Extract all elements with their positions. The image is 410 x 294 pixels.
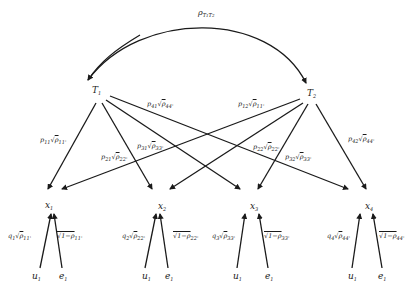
label-p21: p21√ρ22' xyxy=(101,154,127,162)
node-e-x3: e1 xyxy=(265,272,274,282)
label-p42: p42√ρ44' xyxy=(348,136,374,144)
path-e-x2 xyxy=(160,214,168,268)
label-p41: p41√ρ44' xyxy=(147,101,173,109)
node-e-x4: e1 xyxy=(378,272,387,282)
node-u-x1: u1 xyxy=(32,272,41,282)
label-q2: q2√ρ22' xyxy=(122,233,145,241)
label-p22: p22√ρ22' xyxy=(253,144,279,152)
label-p11: p11√ρ11' xyxy=(40,137,66,145)
path-e-x3 xyxy=(259,214,268,268)
node-u-x2: u1 xyxy=(142,272,151,282)
rho-sub: T1T2 xyxy=(203,12,215,18)
path-u-x3 xyxy=(237,214,245,268)
label-err3: √1−ρ33' xyxy=(264,233,289,241)
label-err1: √1−ρ11' xyxy=(57,233,82,241)
path-u-x1 xyxy=(40,214,51,268)
node-x3: x3 xyxy=(250,202,258,212)
path-e-x1 xyxy=(54,214,62,268)
path-u-x4 xyxy=(352,214,360,268)
node-x1: x1 xyxy=(45,201,53,211)
node-e-x1: e1 xyxy=(59,272,68,282)
node-u-x3: u1 xyxy=(233,272,242,282)
correlation-arc xyxy=(88,28,306,83)
label-p31: p31√ρ33' xyxy=(137,143,163,151)
label-err4: √1−ρ44' xyxy=(379,233,404,241)
label-q4: q4√ρ44' xyxy=(327,233,350,241)
path-e-x4 xyxy=(373,214,382,268)
node-x4: x4 xyxy=(365,202,373,212)
label-err2: √1−ρ22' xyxy=(173,233,198,241)
node-x2: x2 xyxy=(158,202,166,212)
node-u-x4: u1 xyxy=(348,272,357,282)
correlation-label: ρT1T2 xyxy=(198,9,214,18)
correlation-arc-start xyxy=(88,35,140,80)
path-T1-x1 xyxy=(48,103,96,189)
path-T2-x4 xyxy=(316,104,366,189)
path-diagram-canvas xyxy=(0,0,410,294)
node-e-x2: e1 xyxy=(165,272,174,282)
label-q1: q1√ρ11' xyxy=(8,233,31,241)
node-T2: T2 xyxy=(307,89,316,99)
label-q3: q3√ρ33' xyxy=(212,233,235,241)
label-p32: p32√ρ33' xyxy=(285,154,311,162)
label-p12: p12√ρ11' xyxy=(238,101,264,109)
node-T1: T1 xyxy=(92,86,101,96)
path-u-x2 xyxy=(145,214,156,268)
